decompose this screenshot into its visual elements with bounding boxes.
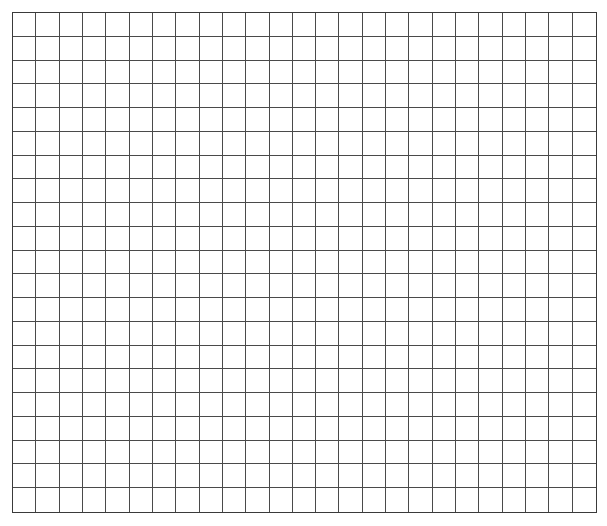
grid-cell [83,346,106,370]
grid-cell [106,346,129,370]
grid-cell [36,227,59,251]
grid-cell [316,274,339,298]
grid-cell [153,346,176,370]
grid-cell [339,108,362,132]
grid-cell [153,417,176,441]
grid-cell [106,203,129,227]
grid-cell [526,84,549,108]
grid-cell [106,61,129,85]
grid-cell [293,464,316,488]
grid-cell [60,227,83,251]
grid-cell [130,251,153,275]
grid-cell [293,84,316,108]
grid-cell [573,298,596,322]
grid-cell [293,13,316,37]
grid-cell [573,369,596,393]
grid-cell [223,441,246,465]
grid-cell [456,251,479,275]
grid-cell [36,441,59,465]
grid-cell [363,464,386,488]
grid-cell [526,108,549,132]
grid-cell [130,227,153,251]
grid-cell [153,369,176,393]
grid-cell [456,441,479,465]
grid-cell [409,274,432,298]
grid-cell [363,322,386,346]
grid-cell [270,274,293,298]
grid-cell [316,251,339,275]
grid-cell [456,322,479,346]
grid-cell [363,61,386,85]
grid-cell [363,369,386,393]
grid-cell [223,488,246,512]
grid-cell [339,156,362,180]
grid-cell [503,393,526,417]
grid-cell [130,84,153,108]
grid-cell [526,13,549,37]
grid-cell [36,417,59,441]
grid-cell [316,464,339,488]
grid-cell [36,369,59,393]
grid-cell [409,488,432,512]
grid-cell [293,346,316,370]
grid-cell [549,298,572,322]
grid-cell [339,369,362,393]
grid-cell [433,108,456,132]
grid-cell [503,298,526,322]
grid-cell [363,132,386,156]
grid-cell [363,179,386,203]
grid-cell [526,322,549,346]
grid-cell [526,369,549,393]
grid-cell [13,417,36,441]
grid-cell [200,203,223,227]
grid-cell [153,132,176,156]
grid-cell [60,441,83,465]
grid-cell [223,298,246,322]
grid-cell [176,84,199,108]
grid-cell [316,156,339,180]
grid-cell [386,369,409,393]
grid-cell [200,251,223,275]
grid-cell [200,274,223,298]
grid-cell [200,37,223,61]
grid-cell [36,108,59,132]
grid-cell [153,298,176,322]
grid-cell [246,393,269,417]
grid-cell [83,251,106,275]
grid-cell [200,369,223,393]
grid-cell [60,369,83,393]
grid-cell [60,61,83,85]
grid-cell [270,393,293,417]
grid-cell [339,203,362,227]
grid-cell [246,298,269,322]
grid-cell [36,61,59,85]
grid-cell [176,274,199,298]
grid-cell [549,488,572,512]
grid-cell [200,227,223,251]
grid-cell [293,417,316,441]
grid-cell [293,298,316,322]
grid-cell [36,488,59,512]
grid-cell [573,227,596,251]
grid-cell [153,441,176,465]
grid-cell [200,13,223,37]
grid-cell [293,61,316,85]
grid-cell [83,156,106,180]
grid-cell [409,108,432,132]
grid-cell [549,227,572,251]
grid-cell [13,488,36,512]
grid-cell [409,61,432,85]
grid-cell [549,156,572,180]
grid-cell [433,37,456,61]
grid-cell [386,441,409,465]
grid-cell [386,227,409,251]
grid-cell [60,84,83,108]
grid-cell [13,13,36,37]
grid-cell [479,322,502,346]
grid-cell [316,298,339,322]
grid-cell [130,417,153,441]
grid-cell [479,346,502,370]
grid-cell [549,84,572,108]
grid-cell [409,84,432,108]
grid-cell [573,37,596,61]
